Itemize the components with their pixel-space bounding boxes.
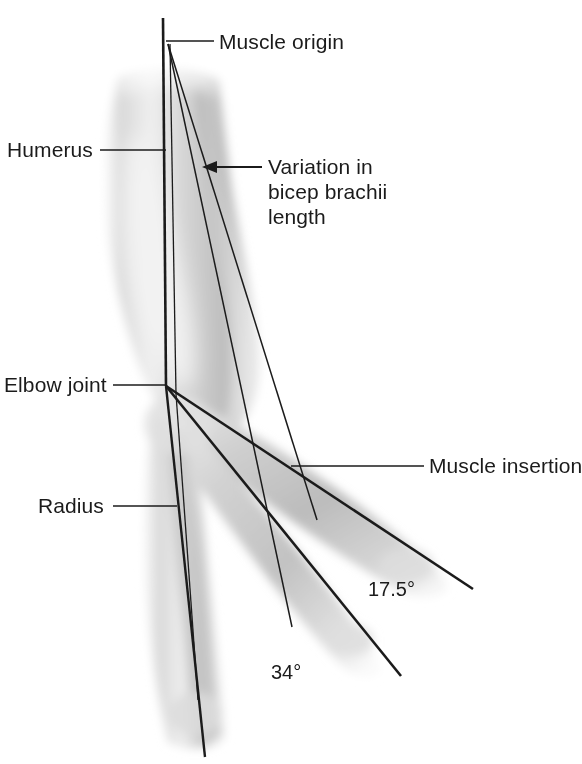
label-muscle-origin: Muscle origin: [219, 29, 344, 54]
wrist-bulge-lower: [326, 624, 374, 656]
label-variation-in-bicep-brachii-length: Variation in bicep brachii length: [268, 154, 387, 229]
label-muscle-insertion: Muscle insertion: [429, 453, 582, 478]
angle-label-upper: 17.5°: [368, 578, 415, 601]
label-elbow-joint: Elbow joint: [4, 372, 107, 397]
label-humerus: Humerus: [7, 137, 93, 162]
wrist-bulge-vertical: [170, 692, 222, 736]
label-radius: Radius: [38, 493, 104, 518]
angle-label-lower: 34°: [271, 661, 301, 684]
